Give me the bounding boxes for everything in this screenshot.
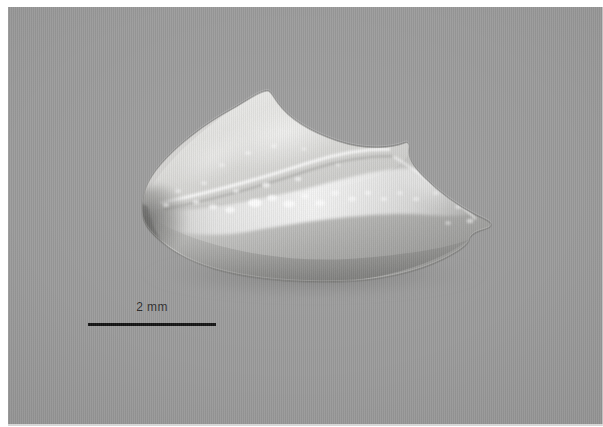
specimen-grain-overlay xyxy=(8,7,603,426)
photograph-plate: 2 mm xyxy=(8,7,603,426)
specimen-layer xyxy=(8,7,603,426)
specimen-shading-group xyxy=(8,7,603,426)
scale-bar-label: 2 mm xyxy=(88,300,216,314)
figure-root: 2 mm xyxy=(0,0,603,427)
scale-bar: 2 mm xyxy=(88,300,228,332)
scale-bar-line xyxy=(88,323,216,326)
plate-bottom-edge xyxy=(8,424,603,426)
specimen-image xyxy=(8,7,603,426)
